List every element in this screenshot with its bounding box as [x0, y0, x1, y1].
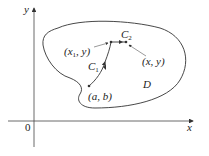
point-x-y	[125, 41, 128, 44]
curve-c2-label: C2	[121, 28, 132, 42]
point-x1-y	[110, 41, 113, 44]
point-a-b-label: (a, b)	[88, 90, 112, 103]
diagram-canvas: y x 0 D C1 C2 (a, b) (x1, y) (x, y)	[0, 0, 209, 156]
region-d-label: D	[142, 78, 151, 90]
leader-x1-y	[94, 43, 108, 47]
x-axis-label: x	[186, 121, 192, 133]
curve-c1-label: C1	[88, 60, 99, 74]
origin-label: 0	[25, 121, 31, 133]
c2-arrow-icon	[119, 40, 123, 44]
point-a-b	[88, 85, 91, 88]
y-axis-label: y	[23, 3, 29, 15]
point-x-y-label: (x, y)	[142, 55, 165, 68]
point-x1-y-label: (x1, y)	[64, 45, 90, 59]
